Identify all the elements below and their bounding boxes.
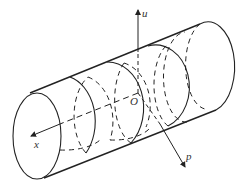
- x-axis: [31, 124, 60, 136]
- u-axis-label: u: [142, 8, 148, 19]
- origin-label: O: [130, 96, 138, 107]
- axes: [31, 10, 185, 167]
- p-axis: [160, 124, 185, 167]
- back-end-arc: [200, 22, 235, 110]
- cross-section-dashed-arcs: [60, 32, 187, 153]
- diagram-canvas: u x O p: [0, 0, 240, 188]
- x-axis-label: x: [34, 139, 39, 150]
- front-end-ellipse: [13, 93, 61, 179]
- p-axis-label: p: [186, 151, 192, 162]
- cylinder-diagram: [0, 0, 240, 188]
- x-axis-hidden: [60, 93, 138, 124]
